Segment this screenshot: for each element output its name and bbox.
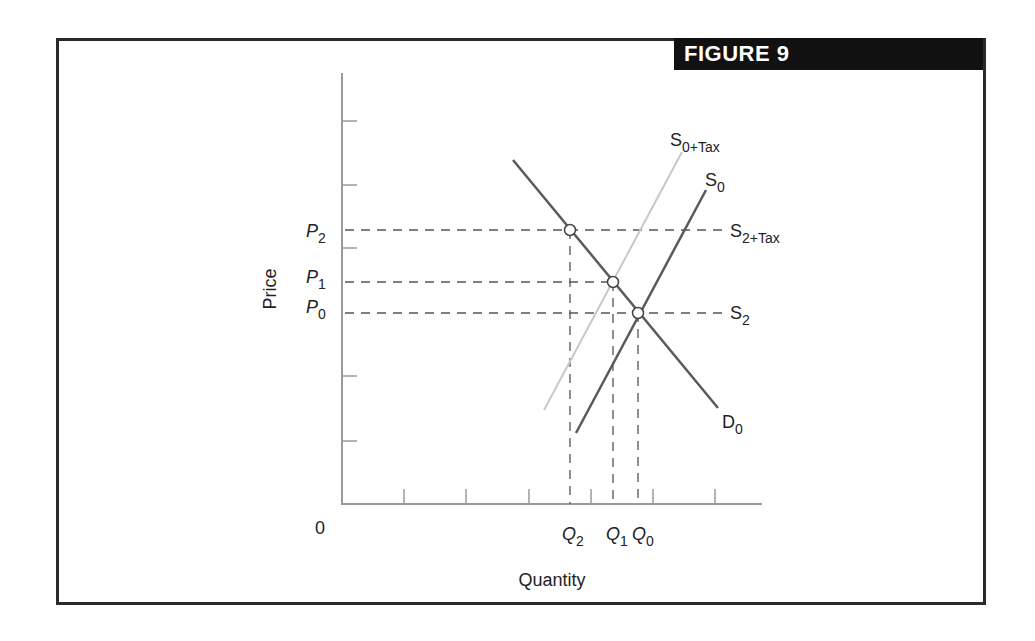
- q2-label: Q2: [562, 524, 584, 549]
- d0-label: D0: [722, 412, 743, 437]
- dashed-guides: [345, 230, 724, 504]
- p1-label: P1: [306, 267, 326, 292]
- axes: [341, 73, 762, 505]
- equilibrium-point-p0: [633, 308, 644, 319]
- s2-label: S2: [730, 303, 750, 328]
- p0-label: P0: [306, 297, 326, 322]
- x-axis-title: Quantity: [518, 570, 585, 590]
- supply-demand-chart: Price P2 P1 P0 0 Q2 Q1 Q0 Quantity S0+Ta…: [0, 0, 1035, 641]
- origin-label: 0: [315, 518, 325, 538]
- s2-tax-label: S2+Tax: [730, 221, 780, 246]
- q1-label: Q1: [606, 524, 628, 549]
- equilibrium-point-p2: [565, 225, 576, 236]
- q0-label: Q0: [632, 524, 654, 549]
- x-axis-ticks: [404, 489, 715, 504]
- y-axis-title: Price: [260, 268, 280, 309]
- p2-label: P2: [306, 221, 326, 246]
- y-axis-ticks: [342, 121, 357, 441]
- s0-tax-label: S0+Tax: [670, 130, 720, 155]
- s0-label: S0: [705, 170, 725, 195]
- equilibrium-point-p1: [608, 277, 619, 288]
